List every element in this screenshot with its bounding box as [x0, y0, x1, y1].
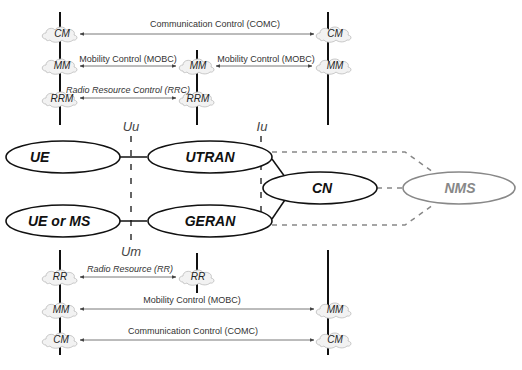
- arrow-label: Mobility Control (MOBC): [143, 295, 241, 305]
- cloud-label: MM: [53, 304, 70, 315]
- node-geran: GERAN: [148, 205, 272, 237]
- bottom-protocol-section: RR MM CM RR MM CM Radio Resource (RR): [42, 250, 351, 355]
- cloud-top-middle-mm: MM: [179, 59, 214, 74]
- node-ue-or-ms: UE or MS: [6, 205, 120, 237]
- arrow-top-rrc: Radio Resource Control (RRC): [66, 85, 190, 98]
- node-cn: CN: [263, 172, 377, 204]
- arrow-bottom-rr: Radio Resource (RR): [80, 264, 176, 277]
- cloud-label: RR: [53, 271, 67, 282]
- node-label: UE: [30, 149, 50, 165]
- arrow-label: Mobility Control (MOBC): [79, 54, 177, 64]
- arrow-label: Mobility Control (MOBC): [217, 54, 315, 64]
- architecture-diagram: CM MM RRM MM RRM CM MM: [0, 0, 522, 370]
- node-label: UTRAN: [186, 149, 236, 165]
- cloud-label: CM: [327, 334, 343, 345]
- cloud-top-right-cm: CM: [316, 27, 351, 42]
- interface-label-iu: Iu: [257, 119, 268, 134]
- arrow-label: Communication Control (COMC): [128, 326, 258, 336]
- network-nodes-section: Uu Um Iu UE UTRAN UE or MS GERA: [6, 119, 515, 259]
- cloud-label: RR: [191, 271, 205, 282]
- cloud-label: MM: [327, 60, 344, 71]
- arrow-label: Communication Control (COMC): [150, 19, 280, 29]
- cloud-bottom-middle-rr: RR: [179, 270, 214, 285]
- arrow-top-comc: Communication Control (COMC): [80, 19, 314, 34]
- node-nms: NMS: [403, 172, 515, 204]
- arrow-bottom-mobc: Mobility Control (MOBC): [80, 295, 314, 309]
- cloud-label: CM: [53, 334, 69, 345]
- interface-label-um: Um: [121, 244, 141, 259]
- node-ue: UE: [6, 141, 120, 173]
- node-label: NMS: [444, 180, 476, 196]
- mgmt-link-geran-nms: [272, 205, 433, 225]
- cloud-bottom-left-cm: CM: [42, 333, 77, 348]
- cloud-label: CM: [54, 28, 70, 39]
- top-protocol-section: CM MM RRM MM RRM CM MM: [42, 12, 351, 125]
- arrow-top-mobc-right: Mobility Control (MOBC): [216, 54, 315, 66]
- cloud-bottom-left-rr: RR: [42, 270, 77, 285]
- cloud-label: RRM: [187, 93, 210, 104]
- node-utran: UTRAN: [148, 141, 272, 173]
- cloud-bottom-right-mm: MM: [316, 303, 351, 318]
- cloud-top-left-cm: CM: [42, 27, 77, 42]
- cloud-top-right-mm: MM: [316, 59, 351, 74]
- arrow-bottom-comc: Communication Control (COMC): [80, 326, 314, 340]
- node-label: UE or MS: [28, 213, 91, 229]
- mgmt-link-utran-nms: [272, 152, 433, 172]
- cloud-bottom-right-cm: CM: [316, 333, 351, 348]
- cloud-bottom-left-mm: MM: [42, 303, 77, 318]
- cloud-label: MM: [54, 60, 71, 71]
- node-label: GERAN: [185, 213, 236, 229]
- arrow-label: Radio Resource (RR): [87, 264, 173, 274]
- interface-label-uu: Uu: [123, 119, 140, 134]
- cloud-label: MM: [327, 304, 344, 315]
- node-label: CN: [312, 180, 333, 196]
- arrow-top-mobc-left: Mobility Control (MOBC): [79, 54, 177, 66]
- arrow-label: Radio Resource Control (RRC): [66, 85, 190, 95]
- cloud-top-left-mm: MM: [42, 59, 77, 74]
- cloud-label: CM: [327, 28, 343, 39]
- cloud-label: MM: [190, 60, 207, 71]
